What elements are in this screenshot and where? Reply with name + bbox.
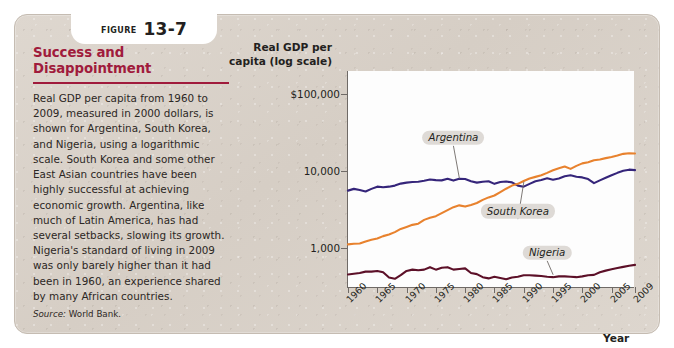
series-label-nigeria: Nigeria [523,246,571,261]
plot-area: $100,00010,0001,000196019651970197519801… [347,71,634,288]
series-lines [348,71,635,288]
callout-leader-line [453,146,459,179]
y-axis-tick-label: 1,000 [220,242,340,254]
y-axis-tick [341,171,348,172]
figure-body-text: Real GDP per capita from 1960 to 2009, m… [31,91,226,304]
y-axis-tick [341,248,348,249]
source-label: Source: [33,309,66,319]
y-axis-title-line2: capita (log scale) [182,55,332,69]
title-divider [33,82,229,84]
figure-badge: Figure 13-7 [71,14,217,44]
figure-text-column: Success and Disappointment Real GDP per … [31,45,235,319]
figure-source: Source: World Bank. [31,309,235,319]
figure-badge-word: Figure [101,22,137,36]
y-axis-title: Real GDP per capita (log scale) [182,41,332,69]
y-axis-title-line1: Real GDP per [182,41,332,55]
series-line-nigeria [348,265,635,279]
chart-region: Real GDP per capita (log scale) $100,000… [239,41,647,331]
series-line-argentina [348,170,635,192]
source-text: World Bank. [69,309,121,319]
series-label-south-korea: South Korea [481,204,555,219]
y-axis-tick [341,94,348,95]
x-axis-title: Year [603,332,629,344]
callout-leader-line [547,261,553,275]
series-label-argentina: Argentina [422,131,484,146]
figure-badge-number: 13-7 [144,19,187,39]
figure-card: Figure 13-7 Success and Disappointment R… [14,14,660,334]
y-axis-tick-label: $100,000 [220,88,340,100]
series-line-south-korea [348,153,635,244]
y-axis-tick-label: 10,000 [220,165,340,177]
